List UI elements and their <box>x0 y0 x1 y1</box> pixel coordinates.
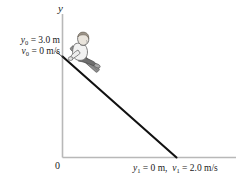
final-velocity-value: = 2.0 m/s <box>182 163 218 173</box>
hand <box>68 57 73 61</box>
sled-group <box>68 32 100 73</box>
initial-velocity-label: v0 = 0 m/s <box>8 47 60 57</box>
final-position-subscript: 1 <box>137 167 140 174</box>
physics-diagram-figure: y 0 y0 = 3.0 m v0 = 0 m/s y1 = 0 m, v1 =… <box>0 0 242 181</box>
initial-position-subscript: 0 <box>25 39 28 46</box>
final-velocity-subscript: 1 <box>176 167 179 174</box>
child-on-sled <box>0 0 242 181</box>
final-state-label: y1 = 0 m, v1 = 2.0 m/s <box>133 164 218 174</box>
y-axis-label: y <box>58 3 63 14</box>
origin-label: 0 <box>55 161 60 171</box>
initial-velocity-value: = 0 m/s <box>31 46 60 56</box>
initial-position-value: = 3.0 m <box>31 35 60 45</box>
initial-position-label: y0 = 3.0 m <box>8 36 60 46</box>
initial-velocity-subscript: 0 <box>26 50 29 57</box>
final-position-value: = 0 m, <box>143 163 168 173</box>
